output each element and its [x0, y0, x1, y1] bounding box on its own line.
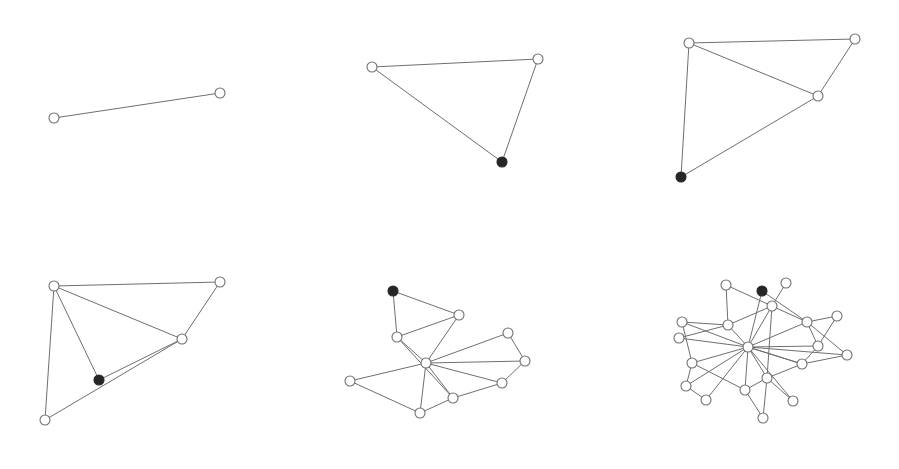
graph-node — [740, 385, 750, 395]
graph-edge — [682, 322, 692, 363]
graph-edge — [748, 347, 847, 355]
graph-edge — [502, 59, 538, 162]
panel-6-nodes — [674, 278, 852, 423]
graph-node — [215, 88, 225, 98]
highlighted-node — [497, 157, 507, 167]
graph-node — [684, 38, 694, 48]
network-growth-figure — [0, 0, 899, 469]
graph-edge — [728, 306, 772, 325]
graph-edge — [745, 347, 748, 390]
graph-edge — [426, 361, 525, 363]
graph-node — [49, 281, 59, 291]
graph-edge — [748, 291, 762, 347]
graph-node — [781, 278, 791, 288]
graph-edge — [182, 282, 220, 339]
panel-5-edges — [350, 291, 525, 413]
graph-edge — [393, 291, 459, 315]
graph-node — [497, 378, 507, 388]
panel-3-nodes — [676, 34, 860, 182]
graph-node — [677, 317, 687, 327]
panel-4-edges — [45, 282, 220, 420]
graph-edge — [689, 43, 818, 96]
graph-node — [701, 395, 711, 405]
graph-node — [421, 358, 431, 368]
graph-node — [215, 277, 225, 287]
graph-edge — [692, 347, 748, 363]
graph-edge — [45, 286, 54, 420]
graph-node — [721, 280, 731, 290]
graph-edge — [99, 339, 182, 380]
graph-edge — [45, 339, 182, 420]
highlighted-node — [388, 286, 398, 296]
graph-edge — [692, 363, 745, 390]
graph-edge — [350, 381, 420, 413]
graph-edge — [679, 338, 748, 347]
panel-4-nodes — [40, 277, 225, 425]
graph-edge — [372, 67, 502, 162]
graph-edge — [681, 96, 818, 177]
graph-edge — [372, 59, 538, 67]
graph-node — [681, 381, 691, 391]
graph-node — [743, 342, 753, 352]
graph-node — [788, 396, 798, 406]
graph-nodes — [40, 34, 860, 425]
graph-node — [448, 393, 458, 403]
graph-edge — [54, 282, 220, 286]
graph-edge — [54, 286, 182, 339]
highlighted-node — [676, 172, 686, 182]
graph-edge — [350, 363, 426, 381]
graph-edge — [818, 39, 855, 96]
highlighted-node — [757, 286, 767, 296]
graph-edge — [453, 383, 502, 398]
graph-node — [832, 311, 842, 321]
graph-node — [723, 320, 733, 330]
graph-node — [49, 113, 59, 123]
graph-edges — [45, 39, 855, 420]
graph-node — [503, 328, 513, 338]
graph-node — [797, 359, 807, 369]
graph-node — [813, 91, 823, 101]
graph-edge — [772, 306, 807, 322]
graph-node — [758, 413, 768, 423]
graph-edge — [397, 337, 426, 363]
graph-node — [40, 415, 50, 425]
graph-edge — [426, 363, 453, 398]
graph-node — [392, 332, 402, 342]
graph-edge — [807, 322, 847, 355]
graph-node — [454, 310, 464, 320]
graph-edge — [426, 333, 508, 363]
graph-node — [767, 301, 777, 311]
graph-edge — [426, 363, 502, 383]
graph-edge — [54, 286, 99, 380]
graph-edge — [393, 291, 397, 337]
graph-node — [177, 334, 187, 344]
graph-node — [687, 358, 697, 368]
graph-edge — [397, 315, 459, 337]
graph-edge — [748, 322, 807, 347]
graph-node — [850, 34, 860, 44]
graph-edge — [748, 346, 818, 347]
graph-node — [813, 341, 823, 351]
graph-edge — [681, 43, 689, 177]
panel-2-nodes — [367, 54, 543, 167]
graph-edge — [426, 315, 459, 363]
highlighted-node — [94, 375, 104, 385]
graph-edge — [763, 378, 767, 418]
panel-1-edges — [54, 93, 220, 118]
graph-edge — [689, 39, 855, 43]
graph-node — [520, 356, 530, 366]
graph-edge — [679, 325, 728, 338]
graph-node — [345, 376, 355, 386]
graph-node — [415, 408, 425, 418]
graph-node — [674, 333, 684, 343]
graph-edge — [54, 93, 220, 118]
graph-node — [367, 62, 377, 72]
graph-edge — [767, 364, 802, 378]
graph-node — [842, 350, 852, 360]
graph-edge — [420, 363, 426, 413]
panel-5-nodes — [345, 286, 530, 418]
graph-edge — [748, 306, 772, 347]
graph-edge — [726, 285, 728, 325]
panel-3-edges — [681, 39, 855, 177]
graph-node — [762, 373, 772, 383]
